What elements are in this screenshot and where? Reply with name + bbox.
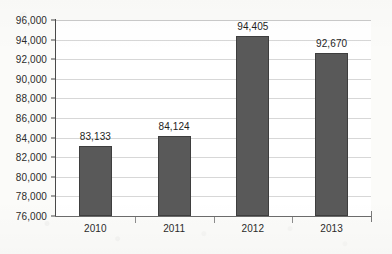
x-axis-category-label: 2010	[84, 223, 107, 234]
bar	[79, 146, 112, 216]
bar-value-label: 83,133	[80, 131, 111, 142]
bar	[158, 136, 191, 216]
y-axis-tick-label: 90,000	[16, 73, 47, 84]
y-axis-tick-label: 88,000	[16, 93, 47, 104]
bar-value-label: 84,124	[159, 121, 190, 132]
y-axis-tick-label: 78,000	[16, 191, 47, 202]
y-axis-tick-label: 84,000	[16, 132, 47, 143]
bar-value-label: 92,670	[316, 38, 347, 49]
bar	[236, 36, 269, 216]
bar-chart: 96,00094,00092,00090,00088,00086,00084,0…	[0, 0, 392, 254]
y-axis-tick-label: 76,000	[16, 211, 47, 222]
y-axis-tick-label: 82,000	[16, 152, 47, 163]
y-axis: 96,00094,00092,00090,00088,00086,00084,0…	[0, 0, 53, 254]
y-axis-tick-label: 92,000	[16, 54, 47, 65]
y-axis-line	[55, 19, 56, 217]
gridline	[56, 20, 371, 21]
x-axis-tick-mark	[214, 217, 215, 223]
x-axis-tick-mark	[292, 217, 293, 223]
x-axis-tick-mark	[135, 217, 136, 223]
y-axis-tick-label: 94,000	[16, 34, 47, 45]
x-axis-category-label: 2013	[320, 223, 343, 234]
y-axis-tick-label: 96,000	[16, 15, 47, 26]
x-axis-category-label: 2012	[242, 223, 265, 234]
y-axis-tick-label: 80,000	[16, 171, 47, 182]
x-axis-end-cap	[371, 211, 372, 222]
x-axis-category-label: 2011	[163, 223, 185, 234]
bar-value-label: 94,405	[237, 21, 268, 32]
bar	[315, 53, 348, 216]
y-axis-tick-label: 86,000	[16, 113, 47, 124]
